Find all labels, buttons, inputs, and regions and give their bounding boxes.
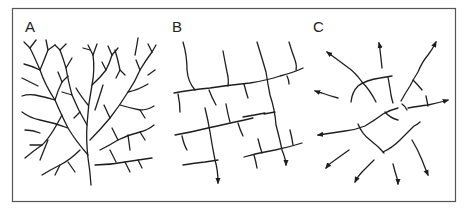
panel-a-label: A [25, 18, 35, 35]
drainage-patterns-figure: A [0, 0, 465, 214]
figure-frame [13, 9, 456, 202]
panel-c-label: C [313, 18, 324, 35]
panel-b-label: B [172, 18, 182, 35]
